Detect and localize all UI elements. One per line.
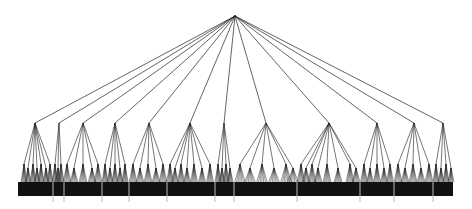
root-edge bbox=[35, 16, 235, 123]
branch-edge bbox=[329, 123, 338, 168]
leaf-edge bbox=[240, 164, 244, 182]
branch-edge bbox=[377, 123, 384, 168]
leaf-edge bbox=[250, 168, 254, 182]
branch-edge bbox=[413, 123, 414, 164]
level2-edges bbox=[24, 123, 451, 168]
branch-edge bbox=[149, 123, 163, 164]
leaf-edge bbox=[271, 168, 275, 182]
branch-edge bbox=[266, 123, 286, 164]
tree-diagram bbox=[0, 0, 472, 209]
root-edge bbox=[59, 16, 235, 123]
root-edge bbox=[235, 16, 443, 123]
branch-edge bbox=[83, 123, 92, 168]
branch-edge bbox=[190, 123, 202, 168]
branch-edge bbox=[398, 123, 414, 164]
branch-edge bbox=[240, 123, 266, 164]
branch-edge bbox=[74, 123, 83, 168]
branch-edge bbox=[377, 123, 390, 164]
branch-edge bbox=[190, 123, 194, 164]
root-edge bbox=[115, 16, 235, 123]
leaf-edge bbox=[290, 168, 294, 182]
leaf-edge bbox=[293, 168, 297, 182]
leaf-edge bbox=[247, 168, 251, 182]
leaf-edge bbox=[283, 164, 287, 182]
branch-edge bbox=[140, 123, 149, 168]
branch-edge bbox=[170, 123, 190, 164]
branch-edge bbox=[370, 123, 377, 168]
branch-edge bbox=[405, 123, 414, 168]
root-edge bbox=[235, 16, 377, 123]
root-edge bbox=[224, 16, 235, 123]
root-edges bbox=[35, 16, 443, 123]
root-node bbox=[234, 15, 236, 17]
branch-edge bbox=[59, 123, 61, 164]
branch-edge bbox=[110, 123, 115, 168]
branch-edge bbox=[133, 123, 149, 164]
branch-edge bbox=[414, 123, 421, 168]
branch-edge bbox=[306, 123, 329, 168]
branch-edge bbox=[301, 123, 329, 164]
branch-edge bbox=[190, 123, 210, 164]
branch-edge bbox=[67, 123, 83, 164]
branch-edge bbox=[105, 123, 115, 164]
leaf-edge bbox=[274, 168, 278, 182]
branch-edge bbox=[443, 123, 446, 164]
leaf-edge bbox=[262, 164, 266, 182]
branch-edge bbox=[414, 123, 429, 164]
root-edge bbox=[149, 16, 235, 123]
branch-edge bbox=[148, 123, 149, 164]
branch-edge bbox=[329, 123, 350, 164]
leaf-edge bbox=[237, 164, 241, 182]
leaf-node-band bbox=[18, 182, 453, 196]
root-edge bbox=[235, 16, 329, 123]
branch-edge bbox=[115, 123, 120, 168]
branch-edge bbox=[115, 123, 125, 164]
leaf-edge bbox=[259, 164, 263, 182]
root-edge bbox=[235, 16, 414, 123]
branch-edge bbox=[443, 123, 451, 168]
branch-edge bbox=[364, 123, 377, 164]
branch-edge bbox=[329, 123, 356, 168]
branch-edge bbox=[83, 123, 98, 164]
branch-edge bbox=[35, 123, 50, 164]
branch-edge bbox=[149, 123, 156, 168]
leaf-edges bbox=[21, 164, 454, 182]
